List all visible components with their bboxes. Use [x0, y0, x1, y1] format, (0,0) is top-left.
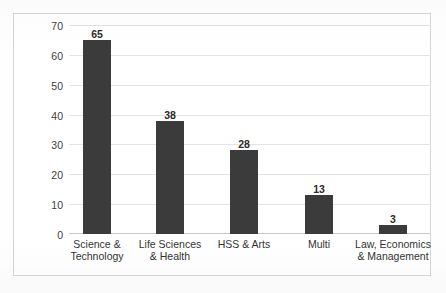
gridline [69, 85, 431, 86]
category-label-line2: & Health [122, 250, 218, 262]
bar-value-label: 65 [77, 29, 117, 40]
bar-hss-arts[interactable] [230, 150, 258, 234]
bar-chart-figure: 70 60 50 40 30 20 10 0 65 38 28 [0, 0, 446, 293]
y-axis: 70 60 50 40 30 20 10 0 [33, 25, 63, 234]
bar-value-label: 28 [224, 139, 264, 150]
category-label-line1: Law, Economics [355, 238, 431, 250]
bar-life-sciences-health[interactable] [156, 121, 184, 234]
bar-multi[interactable] [305, 195, 333, 234]
chart-plot-frame: 70 60 50 40 30 20 10 0 65 38 28 [13, 13, 431, 276]
category-label-line1: Science & [73, 238, 120, 250]
plot-area: 65 38 28 13 3 [69, 25, 431, 234]
bar-value-label: 38 [150, 110, 190, 121]
y-tick-label: 20 [37, 170, 63, 181]
category-label-line1: Life Sciences [139, 238, 201, 250]
bar-law-economics-management[interactable] [379, 225, 407, 234]
bar-science-technology[interactable] [83, 40, 111, 234]
x-axis-category-labels: Science & Technology Life Sciences & Hea… [69, 238, 431, 272]
category-label-law-economics-management: Law, Economics & Management [345, 238, 441, 262]
bar-value-label: 3 [373, 214, 413, 225]
y-tick-label: 40 [37, 111, 63, 122]
y-tick-label: 30 [37, 140, 63, 151]
gridline [69, 115, 431, 116]
category-label-line1: HSS & Arts [218, 238, 271, 250]
category-label-line1: Multi [308, 238, 330, 250]
bar-value-label: 13 [299, 184, 339, 195]
y-tick-label: 70 [37, 21, 63, 32]
y-tick-label: 50 [37, 81, 63, 92]
y-tick-label: 60 [37, 51, 63, 62]
gridline [69, 25, 431, 26]
category-label-line2: & Management [345, 250, 441, 262]
gridline [69, 55, 431, 56]
y-tick-label: 10 [37, 200, 63, 211]
